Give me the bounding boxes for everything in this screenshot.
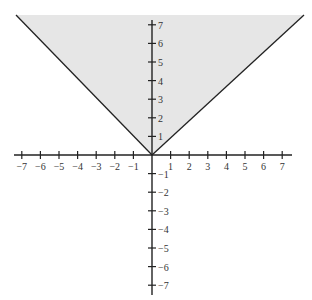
x-tick-label: 1: [168, 161, 173, 172]
y-tick-label: −3: [158, 206, 169, 217]
y-tick-label: 2: [158, 113, 163, 124]
y-tick-label: 6: [158, 38, 163, 49]
x-tick-label: 2: [187, 161, 192, 172]
x-tick-label: 3: [205, 161, 210, 172]
y-tick-label: 1: [158, 131, 163, 142]
x-tick-label: 6: [261, 161, 266, 172]
x-tick-label: −1: [128, 161, 139, 172]
x-tick-label: 5: [243, 161, 248, 172]
x-tick-label: −4: [72, 161, 83, 172]
y-tick-label: 7: [158, 20, 163, 31]
y-tick-label: 5: [158, 57, 163, 68]
y-tick-label: −6: [158, 262, 169, 273]
x-tick-label: −7: [16, 161, 27, 172]
y-tick-label: 4: [158, 76, 163, 87]
y-tick-label: −2: [158, 187, 169, 198]
x-tick-label: −3: [91, 161, 102, 172]
x-tick-label: 7: [280, 161, 285, 172]
x-tick-label: −6: [35, 161, 46, 172]
y-tick-label: 3: [158, 94, 163, 105]
y-tick-label: −5: [158, 243, 169, 254]
x-tick-label: −2: [109, 161, 120, 172]
absolute-value-inequality-graph: −7−6−5−4−3−2−11234567 7654321−1−2−3−4−5−…: [0, 0, 312, 300]
y-tick-label: −1: [158, 169, 169, 180]
x-tick-label: −5: [54, 161, 65, 172]
y-tick-label: −4: [158, 224, 169, 235]
y-tick-label: −7: [158, 280, 169, 291]
x-tick-label: 4: [224, 161, 229, 172]
